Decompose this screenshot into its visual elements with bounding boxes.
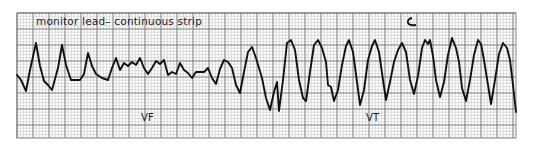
ecg-grid-minor (17, 13, 516, 138)
vf-rhythm-label: VF (141, 112, 154, 123)
vt-rhythm-label: VT (366, 112, 379, 123)
strip-title: monitor lead– continuous strip (36, 15, 202, 27)
pen-mark-c-icon (408, 18, 416, 25)
